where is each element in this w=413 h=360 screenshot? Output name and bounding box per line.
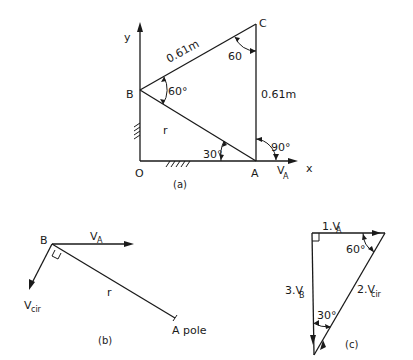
- figure-b-caption: (b): [98, 335, 112, 346]
- right-angle-marker: [312, 233, 319, 241]
- pole-tick: [173, 315, 177, 321]
- figure-c-velocity-triangle: 60° 30° 1.V A 2.V cir 3.V B (c): [285, 220, 385, 355]
- wall-hatch-icon: [134, 123, 140, 139]
- x-axis-label: x: [306, 162, 313, 175]
- figure-b-instant-centre: V A r V cir B A pole (b): [24, 230, 207, 346]
- figure-c-caption: (c): [345, 339, 358, 350]
- vector-VA-subscript: A: [97, 236, 103, 245]
- y-axis-label: y: [124, 31, 131, 44]
- velocity-diagram-figure: y x B C O A 0.61m 0.61m r: [0, 0, 413, 360]
- link-BA-r: [140, 90, 256, 161]
- side-1-subscript: A: [336, 226, 342, 235]
- link-r-label: r: [163, 124, 168, 137]
- side-1-arrow-icon: [372, 230, 381, 236]
- side-2-arrow-icon: [320, 340, 326, 350]
- angle-A-30-label: 30°: [203, 148, 223, 161]
- angle-B-label: 60°: [168, 85, 188, 98]
- link-r: [52, 244, 175, 318]
- vector-Vcir-arrow-icon: [29, 279, 35, 290]
- point-A-label: A: [251, 167, 259, 180]
- length-CA-label: 0.61m: [261, 88, 296, 101]
- figure-a-caption: (a): [173, 179, 187, 190]
- pole-label: A pole: [172, 324, 207, 337]
- side-3-arrow-icon: [310, 335, 316, 345]
- floor-hatch-icon: [166, 161, 190, 167]
- velocity-VA-subscript: A: [283, 172, 289, 181]
- angle-60-label: 60°: [346, 243, 366, 256]
- point-C-label: C: [259, 17, 267, 30]
- side-3-subscript: B: [299, 291, 305, 300]
- y-axis-arrow-icon: [137, 22, 143, 32]
- angle-C-label: 60: [228, 50, 242, 63]
- vector-VA-arrow-icon: [124, 241, 134, 247]
- length-BC-label: 0.61m: [164, 37, 201, 65]
- vector-Vcir: [32, 244, 52, 283]
- point-B-label: B: [126, 88, 134, 101]
- point-O-label: O: [135, 167, 144, 180]
- side-2-subscript: cir: [371, 290, 382, 299]
- angle-30-label: 30°: [317, 309, 337, 322]
- point-B-label: B: [40, 234, 48, 247]
- vector-Vcir-subscript: cir: [31, 305, 42, 314]
- figure-a-mechanism: y x B C O A 0.61m 0.61m r: [124, 17, 313, 190]
- link-r-label: r: [107, 286, 112, 299]
- angle-A-90-label: 90°: [271, 141, 291, 154]
- x-axis-arrow-icon: [288, 158, 298, 164]
- right-angle-marker: [52, 250, 61, 259]
